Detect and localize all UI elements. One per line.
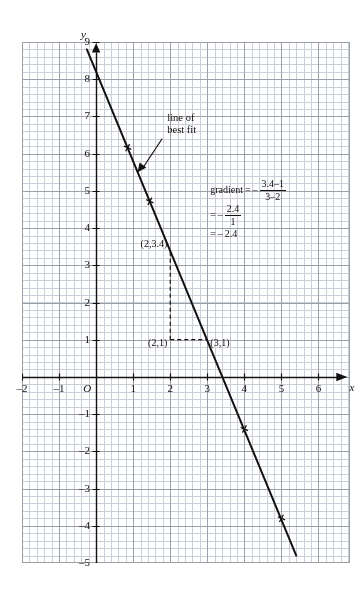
gradient-line-2: = – 2.4 1 [209,203,287,228]
y-tick-label: 2 [64,297,90,308]
x-axis-label: x [349,382,354,393]
y-tick-label: 5 [64,185,90,196]
x-tick-label: –1 [49,383,69,394]
gradient-calculation: gradient = – 3.4–1 3–2 = – 2.4 1 = – 2.4 [209,178,287,240]
x-tick-label: –2 [12,383,32,394]
gradient-equals-3: = [209,228,217,240]
gradient-sign-1: – [252,184,259,196]
gradient-numerator-2: 2.4 [225,203,242,216]
gradient-line-3: = – 2.4 [209,228,287,240]
gradient-word: gradient [209,184,244,196]
x-tick-label: 6 [308,383,328,394]
x-tick-label: 4 [234,383,254,394]
y-tick-label: 8 [64,73,90,84]
y-tick-label: –4 [64,520,90,531]
line-of-best-fit-callout: line of best fit [167,112,196,136]
point-label: (2,1) [148,338,167,348]
y-tick-label: –3 [64,483,90,494]
gradient-denominator-2: 1 [229,216,238,228]
y-tick-label: 9 [64,36,90,47]
gradient-equals-2: = [209,209,217,221]
gradient-sign-3: – [217,228,224,240]
x-tick-label: 5 [271,383,291,394]
graph-page: –5–4–3–2–1123456789–2–1O123456 (2,3.4)(2… [0,0,364,591]
callout-line-1: line of [167,112,196,124]
point-label: (2,3.4) [141,239,168,249]
x-tick-label: 1 [123,383,143,394]
gradient-fraction-1: 3.4–1 3–2 [260,178,287,203]
y-tick-label: 6 [64,148,90,159]
callout-line-2: best fit [167,124,196,136]
y-tick-label: 4 [64,222,90,233]
origin-label: O [77,383,97,394]
gradient-equals-1: = [244,184,252,196]
y-tick-label: 1 [64,334,90,345]
y-tick-label: 3 [64,259,90,270]
x-tick-label: 3 [197,383,217,394]
gradient-fraction-2: 2.4 1 [225,203,242,228]
gradient-denominator-1: 3–2 [263,191,282,203]
y-axis-label: y [81,29,86,40]
x-tick-label: 2 [160,383,180,394]
point-label: (3,1) [210,338,229,348]
gradient-result: 2.4 [224,228,239,240]
gradient-line-1: gradient = – 3.4–1 3–2 [209,178,287,203]
y-tick-label: –5 [64,557,90,568]
y-tick-label: –1 [64,408,90,419]
gradient-numerator-1: 3.4–1 [260,178,287,191]
y-tick-label: 7 [64,110,90,121]
y-tick-label: –2 [64,445,90,456]
gradient-sign-2: – [217,209,224,221]
cropped-header-text [6,0,206,6]
